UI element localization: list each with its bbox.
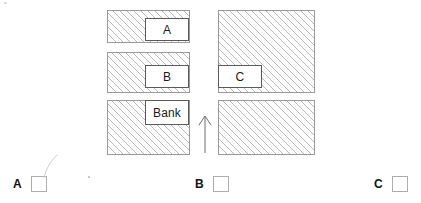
answer-options-row: A B C bbox=[0, 172, 421, 196]
arrow-up-icon bbox=[193, 114, 217, 154]
answer-letter-a: A bbox=[13, 178, 22, 190]
map-label-a: A bbox=[145, 18, 189, 41]
street-map-diagram: A B Bank C bbox=[107, 10, 315, 155]
answer-option-c[interactable]: C bbox=[374, 172, 408, 196]
answer-option-b[interactable]: B bbox=[195, 172, 229, 196]
answer-letter-b: B bbox=[195, 178, 204, 190]
map-question-canvas: A B Bank C A B C bbox=[0, 0, 421, 203]
map-label-b: B bbox=[145, 65, 189, 88]
answer-checkbox-a[interactable] bbox=[31, 176, 47, 192]
answer-checkbox-b[interactable] bbox=[213, 176, 229, 192]
answer-checkbox-c[interactable] bbox=[392, 176, 408, 192]
scan-artifact-dot bbox=[88, 176, 90, 178]
scan-artifact-speck bbox=[4, 2, 7, 4]
answer-option-a[interactable]: A bbox=[13, 172, 47, 196]
map-label-bank: Bank bbox=[145, 100, 189, 125]
map-label-c: C bbox=[218, 65, 262, 88]
answer-letter-c: C bbox=[374, 178, 383, 190]
city-block-right-bottom bbox=[218, 100, 315, 155]
